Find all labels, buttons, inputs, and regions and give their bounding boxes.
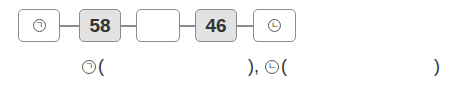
connector-line [60,25,79,27]
giyeok-label: ㄱ [82,60,96,74]
connector-line [180,25,195,27]
box-giyeok[interactable]: ㄱ [18,9,60,42]
answer-close: ) [434,56,440,77]
number-46: 46 [205,15,226,37]
box-nieun[interactable]: ㄴ [253,9,296,42]
answer-nieun: ), ㄴ ( [248,56,287,77]
connector-line [121,25,136,27]
answer-blank-giyeok[interactable] [105,56,245,76]
close-paren: ), [248,56,259,77]
box-46: 46 [195,9,237,42]
open-paren: ( [281,56,287,77]
close-paren: ) [434,56,440,77]
number-58: 58 [89,15,110,37]
nieun-label: ㄴ [265,60,279,74]
nieun-marker: ㄴ [268,19,281,32]
giyeok-marker: ㄱ [33,19,46,32]
answer-blank-nieun[interactable] [295,56,425,76]
box-58: 58 [79,9,121,42]
open-paren: ( [98,56,104,77]
connector-line [237,25,253,27]
answer-giyeok: ㄱ ( [82,56,104,77]
box-empty[interactable] [136,9,180,42]
